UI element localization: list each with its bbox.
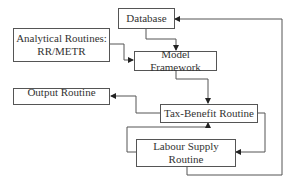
model-framework-node: Model Framework [134, 51, 217, 71]
database-node: Database [118, 8, 175, 29]
edge-model-framework-to-tax-benefit [176, 70, 208, 103]
output-routine-label: Output Routine [27, 86, 95, 99]
edge-database-to-model-framework [146, 29, 176, 50]
output-routine-node: Output Routine [13, 88, 110, 105]
model-framework-label: Model Framework [135, 48, 216, 74]
tax-benefit-routine-label: Tax-Benefit Routine [164, 107, 254, 120]
analytical-routines-label-line2: RR/METR [37, 45, 85, 58]
tax-benefit-routine-node: Tax-Benefit Routine [160, 104, 258, 123]
labour-supply-routine-label-line1: Labour Supply [153, 140, 219, 153]
labour-supply-routine-label-line2: Routine [169, 153, 204, 166]
analytical-routines-node: Analytical Routines: RR/METR [13, 28, 110, 62]
edge-tax-benefit-to-output [111, 96, 160, 113]
labour-supply-routine-node: Labour Supply Routine [136, 139, 236, 167]
analytical-routines-label-line1: Analytical Routines: [16, 32, 107, 45]
database-label: Database [126, 12, 166, 25]
edge-analytical-to-model-framework [110, 44, 133, 60]
